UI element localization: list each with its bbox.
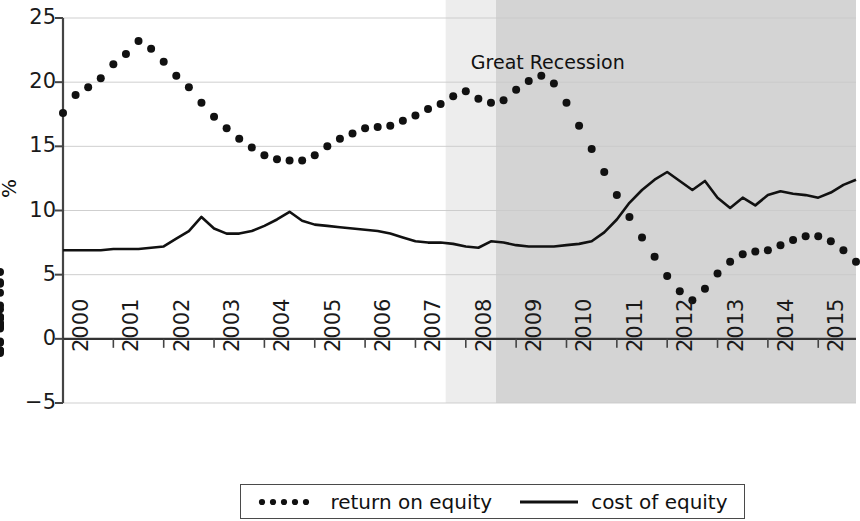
x-tick-label: 2008	[474, 299, 495, 352]
solid-line-marker-icon	[518, 497, 580, 507]
x-tick-label: 2006	[373, 299, 394, 352]
x-tick-label: 2001	[121, 299, 142, 352]
legend-label-cost-of-equity: cost of equity	[591, 490, 727, 514]
x-tick-label: 2012	[675, 299, 696, 352]
legend-entry-return-on-equity: return on equity	[257, 490, 492, 514]
x-tick-label: 2009	[524, 299, 545, 352]
plot-area: 2520151050−5 200020012002200320042005200…	[0, 0, 860, 470]
great-recession-annotation: Great Recession	[471, 51, 625, 73]
chart-legend: return on equity cost of equity	[240, 484, 745, 519]
x-tick-label: 2003	[222, 299, 243, 352]
x-tick-label: 2004	[272, 299, 293, 352]
y-axis-title: %	[0, 179, 21, 198]
x-tick-label: 2005	[323, 299, 344, 352]
figure-root: 2520151050−5 200020012002200320042005200…	[0, 0, 860, 521]
x-tick-label: 2010	[574, 299, 595, 352]
dotted-line-marker-icon	[257, 497, 319, 507]
x-tick-label: 2000	[71, 299, 92, 352]
legend-entry-cost-of-equity: cost of equity	[518, 490, 727, 514]
x-tick-label: 2013	[726, 299, 747, 352]
x-tick-label: 2002	[172, 299, 193, 352]
legend-label-return-on-equity: return on equity	[330, 490, 492, 514]
x-tick-label: 2014	[776, 299, 797, 352]
x-tick-label: 2007	[423, 299, 444, 352]
x-axis-tick-labels: 2000200120022003200420052006200720082009…	[0, 0, 860, 470]
x-tick-label: 2011	[625, 299, 646, 352]
x-tick-label: 2015	[826, 299, 847, 352]
